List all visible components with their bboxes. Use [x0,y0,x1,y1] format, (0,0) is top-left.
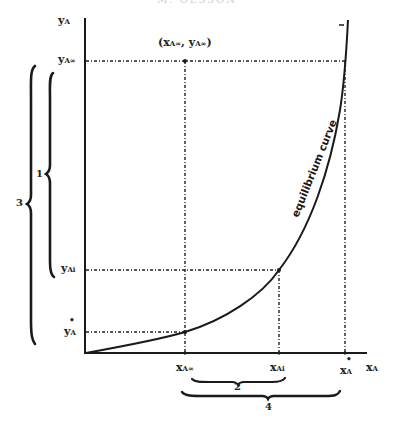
y-axis-label: yA [58,14,70,27]
y-tick-yAstar: • yA [64,325,76,338]
y-tick-yAi: yAi [61,262,76,275]
curve-label: equilibrium curve [289,118,339,219]
brace-3 [27,66,35,344]
brace-4 [182,391,340,399]
x-tick-xAstar: • xA [340,364,352,377]
x-tick-xAinf: xA∞ [176,361,194,374]
point-xAinf-yAstar [183,330,187,334]
point-label-xAinf-yAinf: (xA∞, yA∞) [158,36,212,49]
brace-label-1: 1 [36,168,43,179]
brace-label-3: 3 [16,197,23,208]
point-xAinf-yAinf [183,59,187,63]
brace-1 [46,73,54,277]
point-xAi-yAi [277,268,281,272]
brace-label-4: 4 [265,401,272,412]
x-axis-label: xA [366,361,378,374]
diagram-figure: M. OLSSON [0,0,394,424]
y-tick-yAinf: yA∞ [58,53,76,66]
brace-label-2: 2 [234,381,241,392]
x-tick-xAi: xAi [270,361,285,374]
